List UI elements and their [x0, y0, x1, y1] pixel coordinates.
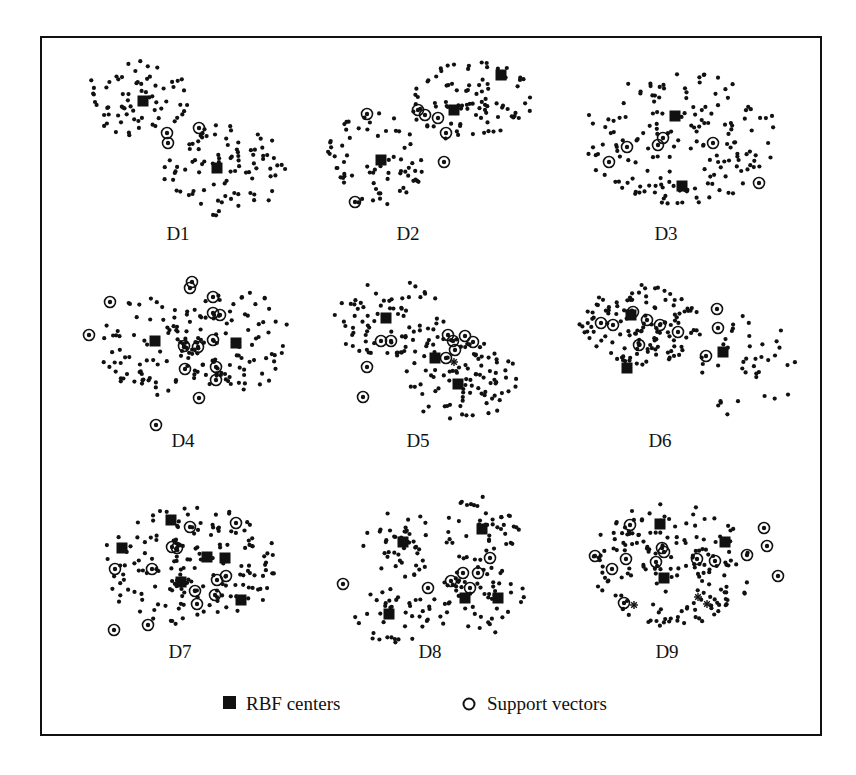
data-point	[464, 534, 468, 538]
data-point	[357, 621, 361, 625]
data-point	[695, 129, 699, 133]
rbf-center	[496, 70, 507, 81]
data-point	[197, 552, 201, 556]
data-point	[195, 545, 199, 549]
data-point	[235, 353, 239, 357]
data-point	[684, 96, 688, 100]
data-point	[154, 385, 158, 389]
data-point	[433, 389, 437, 393]
data-point	[214, 213, 218, 217]
data-point	[654, 572, 658, 576]
data-point	[406, 174, 410, 178]
data-point	[151, 519, 155, 523]
data-point	[606, 311, 610, 315]
data-point	[378, 528, 382, 532]
data-point	[491, 522, 495, 526]
data-point	[647, 184, 651, 188]
data-point	[517, 116, 521, 120]
data-point	[350, 174, 354, 178]
data-point	[693, 113, 697, 117]
data-point	[197, 147, 201, 151]
data-point	[591, 310, 595, 314]
data-point	[407, 325, 411, 329]
data-point	[659, 176, 663, 180]
data-point	[201, 584, 205, 588]
data-point	[728, 528, 732, 532]
data-point	[413, 169, 417, 173]
data-point	[140, 116, 144, 120]
data-point	[333, 154, 337, 158]
data-point	[715, 153, 719, 157]
data-point	[770, 114, 774, 118]
data-point	[519, 600, 523, 604]
data-point	[779, 328, 783, 332]
data-point	[193, 158, 197, 162]
data-point	[265, 153, 269, 157]
data-point	[693, 565, 697, 569]
data-point	[618, 155, 622, 159]
data-point	[628, 333, 632, 337]
data-point	[344, 128, 348, 132]
data-point	[182, 88, 186, 92]
data-point	[698, 332, 702, 336]
data-point	[454, 589, 458, 593]
data-point	[136, 80, 140, 84]
rbf-center	[493, 593, 504, 604]
support-vector	[211, 362, 222, 373]
data-point	[617, 180, 621, 184]
data-point	[126, 98, 130, 102]
data-point	[204, 373, 208, 377]
data-point	[366, 314, 370, 318]
data-point	[648, 531, 652, 535]
data-point	[693, 524, 697, 528]
data-point	[606, 579, 610, 583]
figure-frame	[41, 37, 821, 735]
data-point	[631, 177, 635, 181]
data-point	[669, 323, 673, 327]
data-point	[614, 521, 618, 525]
data-point	[166, 389, 170, 393]
data-point	[361, 305, 365, 309]
data-point	[741, 181, 745, 185]
data-point	[163, 177, 167, 181]
data-point	[640, 518, 644, 522]
panel-label: D1	[166, 223, 189, 244]
data-point	[432, 124, 436, 128]
data-point	[416, 95, 420, 99]
data-point	[263, 296, 267, 300]
data-point	[635, 541, 639, 545]
data-point	[466, 624, 470, 628]
data-point	[357, 349, 361, 353]
data-point	[717, 188, 721, 192]
data-point	[509, 590, 513, 594]
data-point	[700, 371, 704, 375]
data-point	[364, 333, 368, 337]
data-point	[404, 345, 408, 349]
data-point	[496, 115, 500, 119]
data-point	[644, 567, 648, 571]
data-point	[760, 342, 764, 346]
data-point	[434, 74, 438, 78]
data-point	[404, 525, 408, 529]
data-point	[731, 82, 735, 86]
rbf-center	[166, 515, 177, 526]
data-point	[494, 381, 498, 385]
data-point	[265, 551, 269, 555]
data-points	[102, 291, 289, 397]
data-point	[114, 333, 118, 337]
data-point	[436, 386, 440, 390]
data-point	[646, 620, 650, 624]
data-point	[658, 624, 662, 628]
data-point	[626, 82, 630, 86]
data-point	[626, 181, 630, 185]
data-point	[673, 524, 677, 528]
rbf-center	[655, 519, 666, 530]
data-point	[773, 397, 777, 401]
data-point	[248, 523, 252, 527]
data-point	[675, 72, 679, 76]
data-point	[138, 610, 142, 614]
data-point	[285, 323, 289, 327]
data-point	[521, 586, 525, 590]
data-point	[586, 310, 590, 314]
data-point	[378, 191, 382, 195]
